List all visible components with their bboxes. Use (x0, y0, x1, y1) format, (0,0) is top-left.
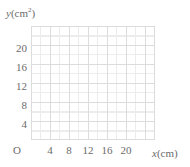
x-tick-label-4: 4 (40, 145, 60, 156)
plot-grid-area[interactable] (31, 26, 155, 140)
origin-label: O (13, 145, 21, 156)
x-axis-label: x(cm) (152, 148, 178, 159)
chart-figure: y(cm2) x(cm) O 20 16 12 8 4 4 8 12 16 20 (0, 0, 190, 167)
y-tick-label-20: 20 (5, 43, 27, 54)
y-axis-unit-close: ) (32, 7, 36, 19)
y-tick-label-12: 12 (5, 81, 27, 92)
y-tick-label-4: 4 (5, 119, 27, 130)
y-axis-label: y(cm2) (6, 8, 35, 19)
y-tick-label-16: 16 (5, 62, 27, 73)
x-axis-unit: (cm) (157, 147, 178, 159)
y-axis-unit-open: (cm (11, 7, 28, 19)
x-tick-label-12: 12 (78, 145, 98, 156)
y-tick-label-8: 8 (5, 100, 27, 111)
x-tick-label-20: 20 (116, 145, 136, 156)
x-tick-label-8: 8 (59, 145, 79, 156)
x-tick-label-16: 16 (97, 145, 117, 156)
